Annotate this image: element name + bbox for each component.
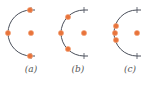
center-charge-dot	[81, 30, 86, 35]
panel-c	[112, 7, 141, 59]
label-b: (b)	[63, 64, 93, 74]
center-charge-dot	[28, 30, 33, 35]
panel-a	[5, 7, 35, 59]
charge-dot	[27, 53, 32, 58]
label-c: (c)	[115, 64, 145, 74]
charge-dot	[27, 7, 32, 12]
center-charge-dot	[134, 30, 139, 35]
charge-dot	[5, 30, 10, 35]
charge-dot	[65, 46, 70, 51]
charge-dot	[112, 30, 117, 35]
charge-dot	[113, 23, 118, 28]
charge-dot	[113, 37, 118, 42]
charge-dot	[58, 30, 63, 35]
label-a: (a)	[16, 64, 46, 74]
panel-b	[58, 7, 88, 59]
charge-dot	[65, 14, 70, 19]
